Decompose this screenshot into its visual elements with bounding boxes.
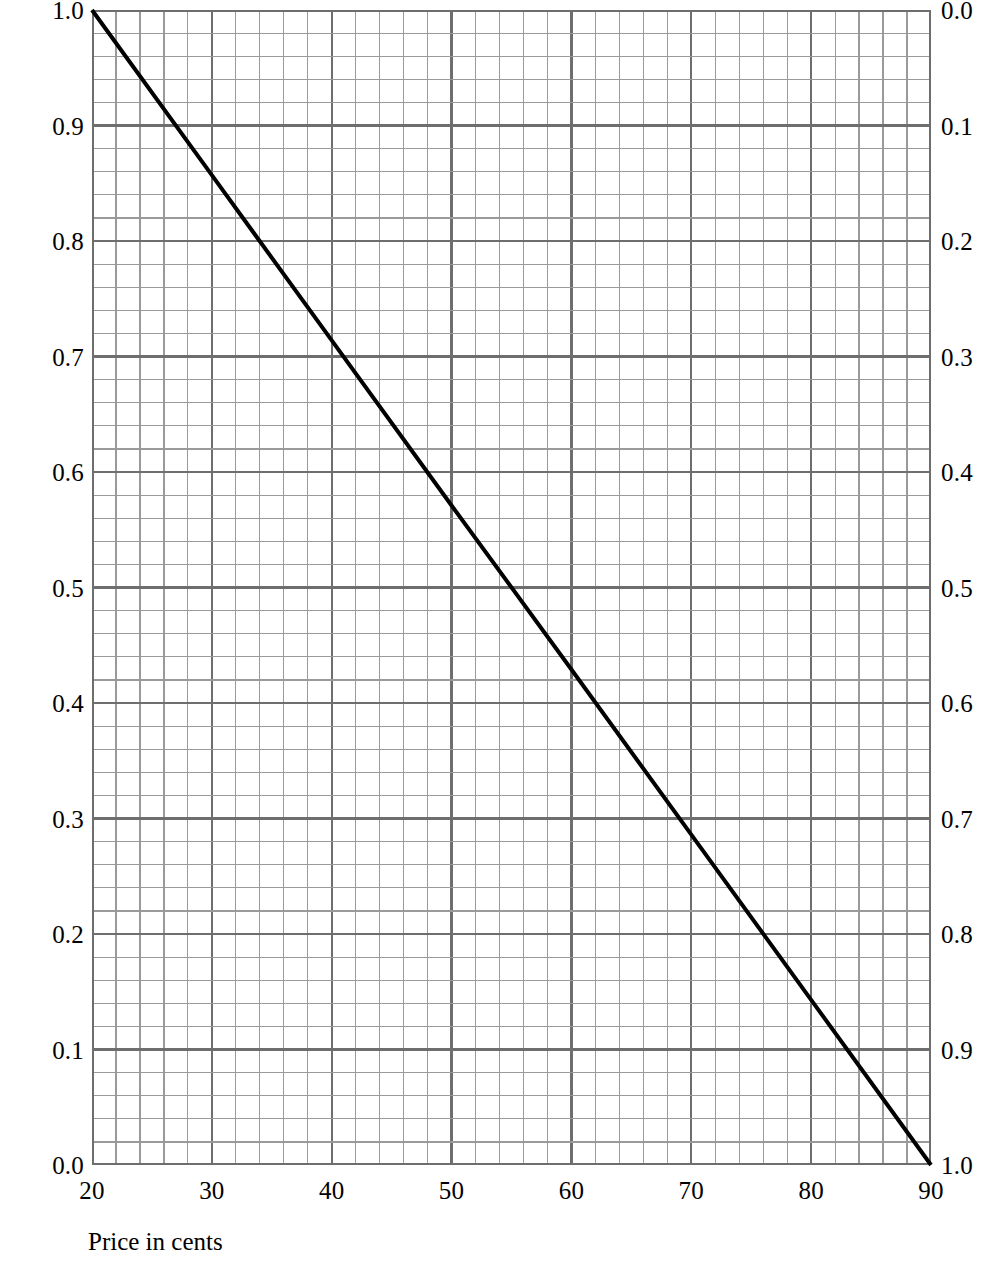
data-series-line xyxy=(92,10,931,1165)
y-axis-right-tick: 0.3 xyxy=(941,344,973,369)
y-axis-left-tick: 0.0 xyxy=(12,1153,84,1178)
y-axis-right-tick: 0.4 xyxy=(941,460,973,485)
y-axis-left-tick: 0.7 xyxy=(12,344,84,369)
y-axis-left-tick: 0.5 xyxy=(12,575,84,600)
x-axis-tick: 30 xyxy=(199,1178,224,1203)
y-axis-right-tick: 0.7 xyxy=(941,806,973,831)
y-axis-left-tick: 0.8 xyxy=(12,229,84,254)
y-axis-left-tick: 1.0 xyxy=(12,0,84,23)
x-axis-tick: 90 xyxy=(918,1178,943,1203)
y-axis-right-tick: 0.2 xyxy=(941,229,973,254)
chart-root: 0.00.10.20.30.40.50.60.70.80.91.0 0.00.1… xyxy=(0,0,983,1266)
x-axis-title: Price in cents xyxy=(88,1228,223,1256)
y-axis-right-tick: 0.5 xyxy=(941,575,973,600)
y-axis-right-tick: 0.9 xyxy=(941,1037,973,1062)
y-axis-right-tick: 0.8 xyxy=(941,922,973,947)
plot-area xyxy=(92,10,931,1165)
x-axis-tick: 80 xyxy=(798,1178,823,1203)
x-axis-tick: 20 xyxy=(79,1178,104,1203)
y-axis-right-tick: 1.0 xyxy=(941,1153,973,1178)
y-axis-left-tick: 0.2 xyxy=(12,922,84,947)
y-axis-right-tick: 0.6 xyxy=(941,691,973,716)
y-axis-left-tick: 0.4 xyxy=(12,691,84,716)
x-axis-tick: 40 xyxy=(319,1178,344,1203)
x-axis-tick: 50 xyxy=(439,1178,464,1203)
x-axis-tick: 70 xyxy=(679,1178,704,1203)
y-axis-left-tick: 0.3 xyxy=(12,806,84,831)
x-axis-tick: 60 xyxy=(559,1178,584,1203)
y-axis-left-tick: 0.1 xyxy=(12,1037,84,1062)
y-axis-left-tick: 0.9 xyxy=(12,113,84,138)
y-axis-right-tick: 0.1 xyxy=(941,113,973,138)
y-axis-left-tick: 0.6 xyxy=(12,460,84,485)
y-axis-right-tick: 0.0 xyxy=(941,0,973,23)
